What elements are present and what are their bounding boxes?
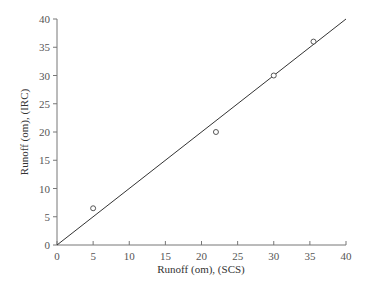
one-to-one-line: [57, 19, 346, 245]
x-tick-label: 15: [160, 250, 172, 262]
y-tick-label: 25: [39, 98, 51, 110]
x-tick-label: 40: [341, 250, 353, 262]
x-tick-label: 0: [54, 250, 60, 262]
x-tick-label: 35: [304, 250, 316, 262]
data-point-circle-icon: [271, 73, 276, 78]
data-points: [91, 39, 316, 211]
y-tick-label: 35: [39, 41, 51, 53]
trend-line: [57, 19, 346, 245]
y-tick-label: 30: [39, 70, 51, 82]
y-tick-label: 15: [39, 154, 51, 166]
y-tick-label: 0: [45, 239, 51, 251]
y-tick-label: 40: [39, 13, 51, 25]
data-point-circle-icon: [213, 130, 218, 135]
x-tick-label: 30: [268, 250, 280, 262]
y-tick-label: 20: [39, 126, 51, 138]
y-tick-label: 5: [45, 211, 51, 223]
y-axis-ticks: 0510152025303540: [39, 13, 57, 251]
x-axis-ticks: 0510152025303540: [54, 241, 352, 262]
y-axis-label: Runoff (om), (IRC): [18, 89, 31, 176]
data-point-circle-icon: [311, 39, 316, 44]
y-tick-label: 10: [39, 183, 51, 195]
scatter-chart: 0510152025303540 0510152025303540 Runoff…: [0, 0, 369, 287]
x-tick-label: 5: [90, 250, 96, 262]
x-tick-label: 20: [196, 250, 208, 262]
x-tick-label: 25: [232, 250, 244, 262]
x-tick-label: 10: [124, 250, 136, 262]
x-axis-label: Runoff (om), (SCS): [157, 263, 245, 276]
data-point-circle-icon: [91, 206, 96, 211]
